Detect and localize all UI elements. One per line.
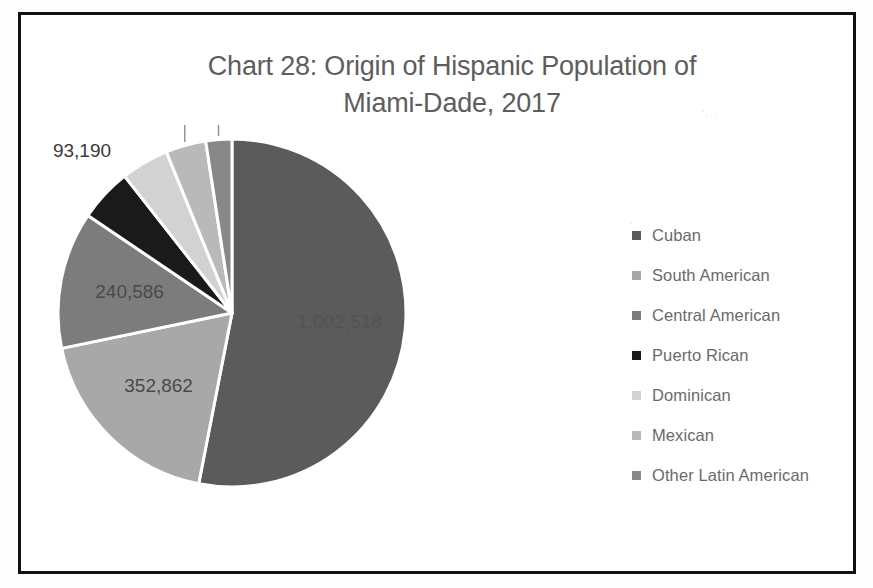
pie-slice-value-label: 240,586 [95,281,164,302]
legend-item-label: Mexican [652,426,714,445]
chart-title: Chart 28: Origin of Hispanic Population … [102,48,802,122]
legend-item-label: South American [652,266,770,285]
legend-item[interactable]: Puerto Rican [632,335,873,375]
legend-item[interactable]: Cuban [632,215,873,255]
chart-container: Chart 28: Origin of Hispanic Population … [42,30,873,586]
legend-item[interactable]: Mexican [632,415,873,455]
legend-swatch-icon [632,471,641,480]
legend-swatch-icon [632,431,641,440]
chart-legend: CubanSouth AmericanCentral AmericanPuert… [632,215,873,495]
pie-plot-area: 1,002,518352,862240,58693,19083,83270,63… [42,125,602,580]
pie-slice-value-label: 1,002,518 [297,311,382,332]
legend-swatch-icon [632,271,641,280]
pie-slice-value-label: 93,190 [53,140,111,161]
legend-swatch-icon [632,231,641,240]
legend-item-label: Puerto Rican [652,346,749,365]
legend-swatch-icon [632,351,641,360]
legend-item[interactable]: Central American [632,295,873,335]
legend-item-label: Dominican [652,386,731,405]
legend-item-label: Central American [652,306,780,325]
legend-item[interactable]: Dominican [632,375,873,415]
pie-slice-value-label: 83,832 [98,125,156,126]
pie-chart-svg: 1,002,518352,862240,58693,19083,83270,63… [42,125,602,580]
chart-frame-border: Chart 28: Origin of Hispanic Population … [18,12,856,574]
label-leader-line [219,125,297,136]
label-leader-line [185,125,198,142]
legend-item-label: Other Latin American [652,466,809,485]
pie-slice-value-label: 352,862 [124,375,193,396]
legend-item[interactable]: Other Latin American [632,455,873,495]
scan-artifact-icon: '... [702,108,736,124]
legend-item[interactable]: South American [632,255,873,295]
chart-title-line-2: Miami-Dade, 2017 [102,85,802,122]
chart-title-line-1: Chart 28: Origin of Hispanic Population … [102,48,802,85]
page-canvas: Chart 28: Origin of Hispanic Population … [0,0,873,588]
legend-item-label: Cuban [652,226,701,245]
legend-swatch-icon [632,311,641,320]
legend-swatch-icon [632,391,641,400]
